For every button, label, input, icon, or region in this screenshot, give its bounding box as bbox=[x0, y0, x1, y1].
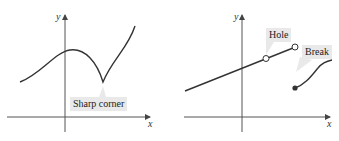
sharp-corner-pointer bbox=[99, 86, 106, 97]
right-line bbox=[185, 48, 293, 91]
sharp-corner-label: Sharp corner bbox=[70, 97, 127, 111]
hole-marker bbox=[263, 56, 269, 62]
closed-endpoint-marker bbox=[292, 85, 297, 90]
hole-label: Hole bbox=[266, 28, 291, 42]
hole-pointer bbox=[266, 42, 274, 55]
left-curve bbox=[20, 26, 135, 82]
open-endpoint-marker bbox=[292, 44, 298, 50]
diagram-canvas bbox=[0, 0, 339, 141]
right-graph bbox=[184, 15, 332, 132]
left-graph bbox=[7, 15, 150, 132]
left-x-label: x bbox=[148, 118, 152, 129]
break-label: Break bbox=[302, 45, 332, 59]
left-y-label: y bbox=[56, 11, 60, 22]
right-x-label: x bbox=[327, 118, 331, 129]
right-y-label: y bbox=[234, 11, 238, 22]
break-pointer bbox=[296, 57, 312, 72]
